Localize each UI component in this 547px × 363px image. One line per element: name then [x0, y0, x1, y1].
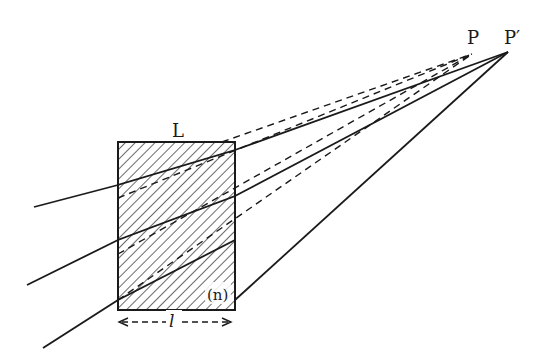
incident-rays	[27, 185, 118, 348]
refractive-index-label: (n)	[207, 286, 228, 304]
image-point-label: P′	[504, 27, 520, 48]
slab-label: L	[172, 120, 184, 141]
thickness-label: l	[169, 311, 174, 331]
object-point-label: P	[467, 27, 479, 48]
slab-refraction-diagram: L (n) l P P′	[0, 0, 547, 363]
